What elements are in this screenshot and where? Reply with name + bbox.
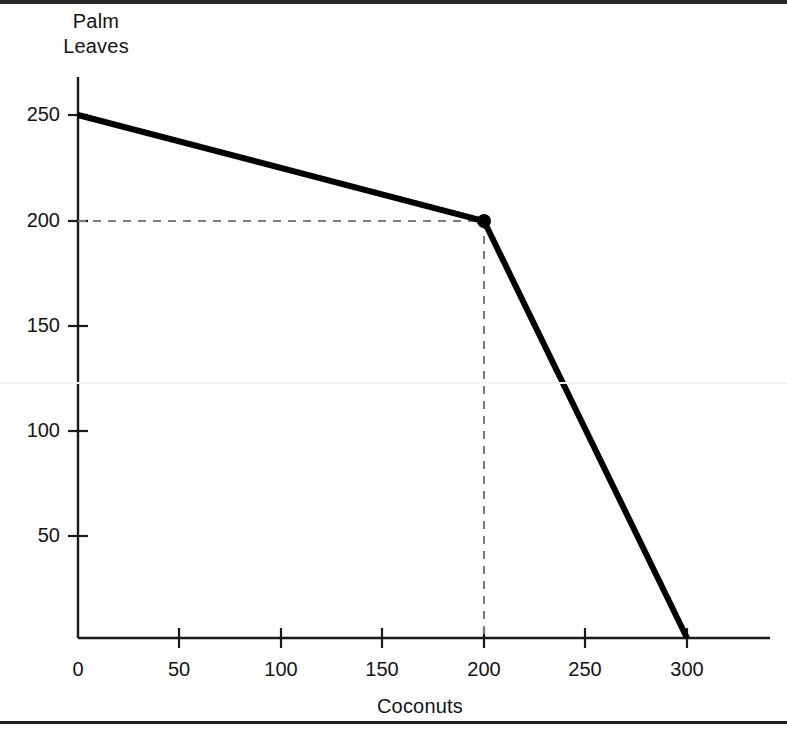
y-axis-title-line-2: Leaves xyxy=(48,34,144,59)
chart-plot-area xyxy=(0,0,787,751)
kink-point-marker xyxy=(477,214,491,228)
y-tick-label-100: 100 xyxy=(4,419,60,442)
x-tick-label-250: 250 xyxy=(555,658,615,681)
y-axis-title-line-1: Palm xyxy=(48,9,144,34)
x-tick-label-50: 50 xyxy=(149,658,209,681)
y-tick-label-200: 200 xyxy=(4,209,60,232)
y-tick-label-50: 50 xyxy=(4,524,60,547)
y-tick-label-150: 150 xyxy=(4,314,60,337)
x-tick-label-100: 100 xyxy=(251,658,311,681)
x-tick-label-300: 300 xyxy=(657,658,717,681)
y-axis-title: Palm Leaves xyxy=(48,9,144,59)
y-tick-label-250: 250 xyxy=(4,103,60,126)
x-axis-title: Coconuts xyxy=(330,694,510,719)
x-tick-label-150: 150 xyxy=(352,658,412,681)
x-tick-label-200: 200 xyxy=(454,658,514,681)
ppf-curve xyxy=(78,115,687,638)
chart-svg xyxy=(0,0,787,751)
x-tick-label-0: 0 xyxy=(48,658,108,681)
figure-page: Palm Leaves Coconuts 250 200 150 100 50 … xyxy=(0,0,787,751)
